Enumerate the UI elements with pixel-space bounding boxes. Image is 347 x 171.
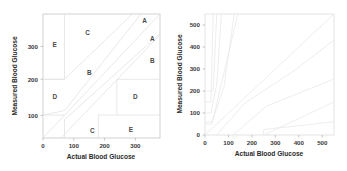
zone-label-a-1: A	[142, 17, 147, 24]
y-tick-100: 100	[28, 112, 39, 119]
x-tick-500: 500	[317, 139, 328, 146]
x-tick-100: 100	[69, 142, 80, 149]
parkes-error-grid-svg: 0 100 200 300 400 500 Actual Blood Gluco…	[174, 0, 347, 171]
parkes-x-axis: 0 100 200 300 400 500 Actual Blood Gluco…	[203, 135, 328, 157]
zone-label-d-2: D	[133, 93, 138, 100]
y-tick-200: 200	[28, 76, 39, 83]
y-tick-400: 400	[190, 43, 201, 50]
x-tick-0: 0	[203, 139, 207, 146]
clarke-y-axis: 100 200 300 Measured Blood Glucose	[11, 36, 43, 119]
x-axis-title: Actual Blood Glucose	[235, 150, 304, 157]
clarke-x-axis: 0 100 200 300 Actual Blood Glucose	[41, 138, 141, 160]
zone-label-b-2: B	[87, 69, 92, 76]
zone-label-b-1: B	[150, 57, 155, 64]
clarke-error-grid-panel: A A B B C C D D E E 0 100 200 300	[0, 0, 174, 171]
y-tick-200: 200	[190, 87, 201, 94]
y-axis-title: Measured Blood Glucose	[11, 36, 18, 115]
zone-label-d-1: D	[52, 93, 57, 100]
zone-label-c-1: C	[85, 29, 90, 36]
x-tick-200: 200	[247, 139, 258, 146]
error-grid-figure: A A B B C C D D E E 0 100 200 300	[0, 0, 347, 171]
y-tick-300: 300	[28, 43, 39, 50]
zone-label-a-2: A	[150, 35, 155, 42]
zone-label-c-2: C	[90, 127, 95, 134]
y-axis-title: Measured Blood Glucose	[176, 34, 183, 113]
x-tick-300: 300	[270, 139, 281, 146]
x-axis-title: Actual Blood Glucose	[67, 153, 136, 160]
clarke-error-grid-svg: A A B B C C D D E E 0 100 200 300	[0, 0, 174, 171]
parkes-error-grid-panel: 0 100 200 300 400 500 Actual Blood Gluco…	[174, 0, 347, 171]
x-tick-0: 0	[41, 142, 45, 149]
x-tick-200: 200	[99, 142, 110, 149]
x-tick-400: 400	[294, 139, 305, 146]
zone-label-e-2: E	[129, 126, 134, 133]
y-tick-0: 0	[197, 131, 201, 138]
y-tick-500: 500	[190, 21, 201, 28]
x-tick-300: 300	[130, 142, 141, 149]
y-tick-100: 100	[190, 109, 201, 116]
zone-label-e-1: E	[53, 41, 58, 48]
parkes-y-axis: 0 100 200 300 400 500 Measured Blood Glu…	[176, 21, 205, 138]
y-tick-300: 300	[190, 65, 201, 72]
x-tick-100: 100	[223, 139, 234, 146]
